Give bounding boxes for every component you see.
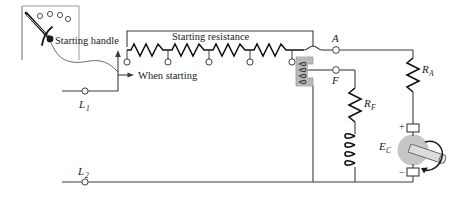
label-l1-letter: L xyxy=(78,98,85,110)
label-l2-letter: L xyxy=(77,165,84,177)
label-polarity-negative: − xyxy=(399,167,405,178)
label-starting-resistance: Starting resistance xyxy=(172,31,250,42)
handle-motion-pointer xyxy=(51,43,118,72)
label-when-starting: When starting xyxy=(138,70,198,81)
terminal-l1[interactable] xyxy=(82,88,88,94)
label-starting-handle: Starting handle xyxy=(55,35,119,46)
label-ra-letter: R xyxy=(421,63,429,75)
supply-line-l1 xyxy=(62,50,121,94)
terminal-a[interactable] xyxy=(333,47,340,54)
label-rf: R F xyxy=(363,97,376,112)
terminal-a-group xyxy=(322,47,413,54)
label-l2: L 2 xyxy=(77,165,89,180)
label-terminal-a: A xyxy=(331,32,339,44)
motor-armature xyxy=(398,124,447,182)
positive-brush-terminal xyxy=(407,124,419,132)
negative-brush-terminal xyxy=(407,168,419,176)
when-starting-arrow xyxy=(118,72,134,77)
label-l1: L 1 xyxy=(78,98,90,113)
label-rf-letter: R xyxy=(363,97,371,109)
terminal-f[interactable] xyxy=(333,67,340,74)
label-ec-letter: E xyxy=(378,140,386,152)
label-ra-subscript: A xyxy=(428,69,434,78)
label-rf-subscript: F xyxy=(370,103,376,112)
label-l2-subscript: 2 xyxy=(85,171,89,180)
field-rheostat-rf xyxy=(349,88,361,134)
label-ec-subscript: C xyxy=(386,146,392,155)
right-arrow-icon xyxy=(128,72,135,77)
label-polarity-positive: + xyxy=(399,121,405,132)
circuit-schematic: Starting handle Starting resistance When… xyxy=(0,0,457,202)
handle-pivot-point xyxy=(47,36,54,43)
starting-resistance-elements xyxy=(127,44,304,56)
supply-line-l2 xyxy=(62,179,413,185)
holding-coil-electromagnet xyxy=(296,46,329,182)
armature-rheostat-ra xyxy=(407,50,419,124)
faceplate-stud-contacts xyxy=(37,11,70,21)
up-arrow-icon xyxy=(115,50,121,57)
label-ra: R A xyxy=(421,63,434,78)
label-terminal-f: F xyxy=(331,74,339,86)
shunt-field-coil xyxy=(345,134,355,182)
label-ec: E C xyxy=(378,140,392,155)
motor-starter-diagram: Starting handle Starting resistance When… xyxy=(0,0,457,202)
label-l1-subscript: 1 xyxy=(86,104,90,113)
